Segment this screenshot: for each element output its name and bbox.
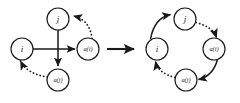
left-node-a-of-i: a(i) (77, 38, 99, 60)
node-label: a(j) (53, 76, 62, 84)
figure-canvas: j i a(i) a(j) (0, 0, 240, 103)
edge-aj-to-i (156, 62, 176, 78)
edge-j-to-ai (196, 23, 217, 38)
edge-ai-to-j (74, 16, 93, 39)
left-node-j: j (47, 8, 69, 30)
node-label: j (183, 14, 187, 24)
right-node-j: j (174, 8, 196, 30)
edge-aj-to-i (21, 61, 48, 77)
right-node-a-of-j: a(j) (175, 69, 197, 91)
left-graph: j i a(i) a(j) (11, 8, 99, 91)
node-label: a(i) (83, 45, 92, 53)
left-node-i: i (11, 38, 33, 60)
right-node-a-of-i: a(i) (203, 38, 225, 60)
left-node-a-of-j: a(j) (47, 69, 69, 91)
node-label: a(i) (209, 45, 218, 53)
edge-ai-to-aj (199, 60, 218, 80)
right-graph: j i a(i) a(j) (146, 8, 225, 91)
right-node-i: i (146, 38, 168, 60)
node-label: j (56, 14, 60, 24)
node-label: a(j) (181, 76, 190, 84)
edge-i-to-j (151, 15, 171, 40)
